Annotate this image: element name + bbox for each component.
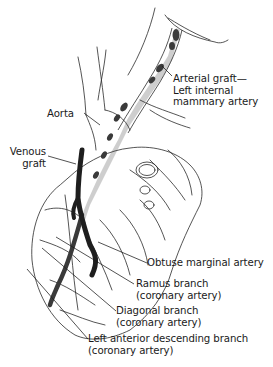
vessel-outline xyxy=(128,8,155,75)
label-diagonal: Diagonal branch (coronary artery) xyxy=(116,305,201,328)
leader-obtuse-marginal xyxy=(98,242,147,263)
label-obtuse-marginal: Obtuse marginal artery xyxy=(147,257,264,269)
label-venous-graft: Venous graft xyxy=(6,146,46,169)
leader-aorta xyxy=(84,113,100,125)
label-lad: Left anterior descending branch (coronar… xyxy=(88,333,248,356)
label-ramus: Ramus branch (coronary artery) xyxy=(136,278,221,301)
label-aorta: Aorta xyxy=(47,108,74,120)
lad-vessel xyxy=(50,215,82,305)
label-arterial-graft: Arterial graft— Left internal mammary ar… xyxy=(173,73,258,108)
leader-venous-graft xyxy=(48,156,76,164)
arterial-graft xyxy=(82,28,180,220)
